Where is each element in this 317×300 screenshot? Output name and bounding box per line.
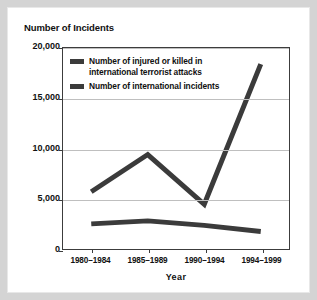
legend-item: Number of injured or killed in internati… bbox=[70, 56, 260, 78]
x-tick-label: 1985–1989 bbox=[127, 256, 167, 265]
chart-legend: Number of injured or killed in internati… bbox=[70, 56, 260, 95]
y-tick-mark bbox=[59, 99, 63, 100]
gridline bbox=[63, 200, 289, 201]
legend-label: Number of international incidents bbox=[89, 81, 219, 92]
gridline bbox=[63, 48, 289, 49]
x-tick-label: 1980–1984 bbox=[70, 256, 110, 265]
legend-label-line1: Number of international incidents bbox=[89, 81, 219, 91]
x-tick-label: 1994–1999 bbox=[241, 256, 281, 265]
legend-label: Number of injured or killed in internati… bbox=[89, 56, 202, 78]
x-tick-mark bbox=[92, 249, 93, 253]
legend-label-line2: international terrorist attacks bbox=[89, 67, 202, 77]
y-axis-tick-labels: 05,00010,00015,00020,000 bbox=[8, 8, 60, 292]
legend-item: Number of international incidents bbox=[70, 81, 260, 92]
gridline bbox=[63, 99, 289, 100]
legend-swatch-icon bbox=[70, 84, 84, 89]
y-tick-label: 15,000 bbox=[32, 93, 60, 102]
y-tick-mark bbox=[59, 251, 63, 252]
gridline bbox=[63, 150, 289, 151]
y-tick-label: 20,000 bbox=[32, 42, 60, 51]
x-axis-tick-labels: 1980–19841985–19891990–19941994–1999 bbox=[62, 256, 290, 270]
figure-card: Number of Incidents 05,00010,00015,00020… bbox=[8, 8, 309, 292]
y-tick-label: 5,000 bbox=[37, 194, 60, 203]
x-tick-mark bbox=[206, 249, 207, 253]
y-tick-label: 0 bbox=[55, 245, 60, 254]
y-tick-label: 10,000 bbox=[32, 144, 60, 153]
series-line-injured-killed bbox=[91, 221, 261, 232]
x-tick-mark bbox=[263, 249, 264, 253]
y-tick-mark bbox=[59, 150, 63, 151]
x-tick-mark bbox=[149, 249, 150, 253]
x-axis-title: Year bbox=[62, 272, 290, 282]
legend-label-line1: Number of injured or killed in bbox=[89, 56, 202, 66]
legend-swatch-icon bbox=[70, 59, 84, 64]
y-tick-mark bbox=[59, 48, 63, 49]
x-tick-label: 1990–1994 bbox=[184, 256, 224, 265]
y-tick-mark bbox=[59, 200, 63, 201]
